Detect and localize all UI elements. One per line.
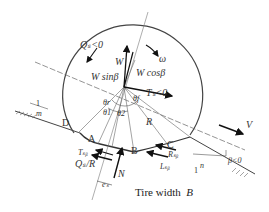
ground-hatch-left [16, 111, 36, 118]
label-point-b: B [131, 146, 138, 156]
ground-hatch-right [232, 168, 248, 177]
caption-text: Tire width [135, 186, 181, 198]
label-theta-f: θf [133, 95, 139, 103]
label-beta: β<0 [228, 157, 241, 165]
label-ts: Tₛ<0 [146, 88, 167, 98]
ground-left [15, 111, 80, 133]
label-slope-n: n [200, 162, 204, 170]
label-r: R [146, 117, 152, 127]
label-point-c: C [167, 140, 174, 150]
label-point-a: A [88, 134, 95, 144]
label-es: eₛ [102, 181, 109, 189]
label-slope-1-right: 1 [194, 167, 198, 175]
label-v: V [246, 120, 252, 130]
label-slope-m: m [36, 110, 42, 118]
label-slope-1-left: 1 [36, 100, 40, 108]
caption: Tire width B [135, 186, 193, 198]
label-qs-over-r: Qₛ/R [75, 159, 95, 169]
label-w: W [115, 57, 123, 67]
label-wsin: W sinβ [91, 72, 118, 82]
label-point-d: D [62, 118, 69, 128]
caption-symbol: B [186, 186, 193, 198]
label-wcos: W cosβ [136, 68, 165, 78]
label-theta-2: θ2 [117, 110, 125, 118]
label-tsb: Tₛᵦ [78, 149, 88, 157]
label-n: N [118, 169, 125, 179]
diagram-drawing [0, 0, 269, 212]
label-theta-r: θr [103, 99, 110, 107]
tire-force-diagram: Qₛ<0 ω W W sinβ W cosβ Tₛ<0 V R D A B C … [0, 0, 269, 212]
label-lsb: Lₛᵦ [160, 163, 170, 171]
label-rsb: Rₛᵦ [168, 151, 178, 159]
label-omega: ω [159, 54, 166, 64]
label-theta-1: θ1 [103, 109, 111, 117]
label-qs: Qₛ<0 [80, 40, 103, 50]
